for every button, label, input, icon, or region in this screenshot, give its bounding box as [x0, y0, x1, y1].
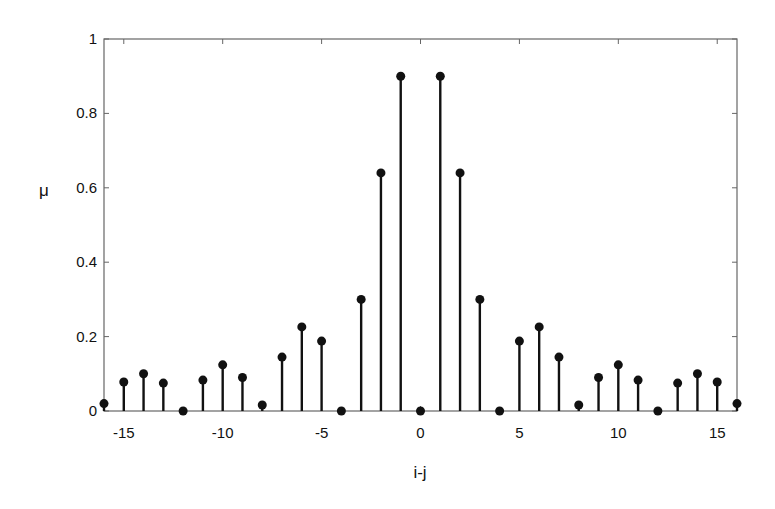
stem-marker [337, 407, 346, 416]
stem-marker [673, 379, 682, 388]
stem-marker [357, 295, 366, 304]
plot-area: 00.20.40.60.81 -15-10-5051015 [76, 30, 741, 441]
stem-marker [416, 407, 425, 416]
y-axis-label: μ [39, 181, 49, 200]
y-tick-label: 0.4 [76, 253, 97, 270]
stem-marker [574, 401, 583, 410]
x-axis-label: i-j [413, 463, 426, 482]
stem-marker [258, 401, 267, 410]
stem-marker [179, 407, 188, 416]
x-tick-label: 5 [515, 424, 523, 441]
stem-marker [139, 369, 148, 378]
stem-marker [713, 377, 722, 386]
x-tick-label: -10 [212, 424, 234, 441]
stem-marker [456, 168, 465, 177]
stem-chart: 00.20.40.60.81 -15-10-5051015 i-j μ [0, 0, 775, 509]
stem-marker [733, 399, 742, 408]
y-tick-label: 1 [89, 30, 97, 47]
y-tick-label: 0.2 [76, 328, 97, 345]
stem-marker [119, 377, 128, 386]
stem-marker [653, 407, 662, 416]
stem-marker [594, 373, 603, 382]
stem-marker [297, 322, 306, 331]
y-axis-ticks: 00.20.40.60.81 [76, 30, 737, 419]
x-tick-label: 15 [709, 424, 726, 441]
stem-marker [100, 399, 109, 408]
stem-marker [198, 376, 207, 385]
y-tick-label: 0 [89, 402, 97, 419]
stem-marker [278, 353, 287, 362]
stem-marker [159, 379, 168, 388]
y-tick-label: 0.6 [76, 179, 97, 196]
stem-series [100, 72, 742, 416]
stem-marker [317, 337, 326, 346]
stem-marker [693, 369, 702, 378]
stem-marker [495, 407, 504, 416]
axes-box [104, 39, 737, 411]
stem-marker [554, 353, 563, 362]
stem-marker [535, 322, 544, 331]
stem-marker [475, 295, 484, 304]
y-tick-label: 0.8 [76, 104, 97, 121]
stem-marker [634, 376, 643, 385]
stem-marker [238, 373, 247, 382]
stem-marker [436, 72, 445, 81]
x-tick-label: 0 [416, 424, 424, 441]
stem-marker [396, 72, 405, 81]
x-tick-label: -15 [113, 424, 135, 441]
stem-marker [376, 168, 385, 177]
stem-marker [614, 360, 623, 369]
stem-marker [218, 360, 227, 369]
stem-marker [515, 337, 524, 346]
x-tick-label: -5 [315, 424, 328, 441]
x-tick-label: 10 [610, 424, 627, 441]
